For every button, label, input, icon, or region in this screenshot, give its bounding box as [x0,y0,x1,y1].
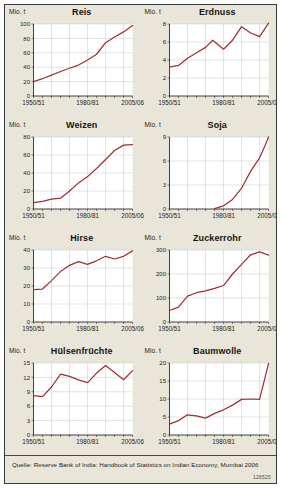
svg-text:1980/81: 1980/81 [212,212,235,219]
svg-text:60: 60 [23,151,30,158]
svg-text:0: 0 [162,318,166,325]
infographic-poster: Mio. t Reis 0204060801001950/511980/8120… [4,4,277,484]
svg-text:2005/06: 2005/06 [257,99,277,106]
svg-text:1980/81: 1980/81 [212,325,235,332]
chart-title-weizen: Weizen [9,120,137,130]
svg-text:2005/06: 2005/06 [257,438,277,445]
svg-text:1980/81: 1980/81 [76,438,99,445]
svg-text:10: 10 [159,395,166,402]
svg-text:1950/51: 1950/51 [158,325,181,332]
plot-area-zuckerrohr: 01002003001950/511980/812005/06 [145,246,273,336]
svg-text:40: 40 [23,63,30,70]
chart-title-soja: Soja [145,120,273,130]
chart-title-hirse: Hirse [9,233,137,243]
svg-text:2: 2 [162,74,166,81]
svg-text:0: 0 [27,318,31,325]
line-chart-zuckerrohr: 01002003001950/511980/812005/06 [145,246,273,336]
source-note: Quelle: Reserve Bank of India: Handbook … [12,461,259,468]
svg-text:1950/51: 1950/51 [22,325,45,332]
svg-text:20: 20 [23,282,30,289]
chart-panel-weizen: Mio. t Weizen 0204060801950/511980/81200… [5,118,141,231]
svg-text:6: 6 [162,157,166,164]
svg-text:300: 300 [155,246,166,253]
chart-panel-erdnuss: Mio. t Erdnuss 024681950/511980/812005/0… [141,5,277,118]
svg-text:100: 100 [155,294,166,301]
svg-text:0: 0 [27,205,31,212]
line-chart-huelsenfruechte: 036912151950/511980/812005/06 [9,359,137,449]
svg-text:4: 4 [162,56,166,63]
svg-text:0: 0 [27,431,31,438]
svg-text:80: 80 [23,133,30,140]
svg-text:15: 15 [159,377,166,384]
svg-text:20: 20 [23,78,30,85]
svg-text:1950/51: 1950/51 [158,99,181,106]
svg-text:12: 12 [23,374,30,381]
svg-text:0: 0 [162,205,166,212]
chart-header-weizen: Mio. t Weizen [9,120,137,133]
svg-text:1980/81: 1980/81 [76,99,99,106]
svg-text:6: 6 [162,38,166,45]
chart-header-huelsenfruechte: Mio. t Hülsenfrüchte [9,346,137,359]
plot-area-hirse: 0102030401950/511980/812005/06 [9,246,137,336]
line-chart-baumwolle: 051015201950/511980/812005/06 [145,359,273,449]
chart-header-soja: Mio. t Soja [145,120,273,133]
svg-text:3: 3 [27,417,31,424]
chart-header-reis: Mio. t Reis [9,7,137,20]
svg-text:80: 80 [23,35,30,42]
chart-panel-huelsenfruechte: Mio. t Hülsenfrüchte 036912151950/511980… [5,344,141,457]
plot-area-soja: 03691950/511980/812005/06 [145,133,273,223]
line-chart-erdnuss: 024681950/511980/812005/06 [145,20,273,110]
svg-text:1950/51: 1950/51 [22,438,45,445]
chart-title-huelsenfruechte: Hülsenfrüchte [9,346,137,356]
plot-area-erdnuss: 024681950/511980/812005/06 [145,20,273,110]
chart-panel-hirse: Mio. t Hirse 0102030401950/511980/812005… [5,231,141,344]
svg-text:15: 15 [23,359,30,366]
svg-text:20: 20 [23,187,30,194]
chart-panel-soja: Mio. t Soja 03691950/511980/812005/06 [141,118,277,231]
svg-text:1980/81: 1980/81 [76,212,99,219]
svg-text:1950/51: 1950/51 [22,212,45,219]
chart-panel-reis: Mio. t Reis 0204060801001950/511980/8120… [5,5,141,118]
svg-text:5: 5 [162,413,166,420]
svg-text:100: 100 [20,20,31,27]
svg-text:1980/81: 1980/81 [212,99,235,106]
svg-text:1980/81: 1980/81 [212,438,235,445]
plot-area-reis: 0204060801001950/511980/812005/06 [9,20,137,110]
svg-text:60: 60 [23,49,30,56]
chart-header-erdnuss: Mio. t Erdnuss [145,7,273,20]
svg-text:40: 40 [23,169,30,176]
chart-grid: Mio. t Reis 0204060801001950/511980/8120… [5,5,276,457]
chart-panel-baumwolle: Mio. t Baumwolle 051015201950/511980/812… [141,344,277,457]
svg-text:200: 200 [155,270,166,277]
plot-area-weizen: 0204060801950/511980/812005/06 [9,133,137,223]
plot-area-huelsenfruechte: 036912151950/511980/812005/06 [9,359,137,449]
svg-text:0: 0 [162,431,166,438]
chart-panel-zuckerrohr: Mio. t Zuckerrohr 01002003001950/511980/… [141,231,277,344]
svg-text:1980/81: 1980/81 [76,325,99,332]
svg-text:0: 0 [27,92,31,99]
line-chart-weizen: 0204060801950/511980/812005/06 [9,133,137,223]
svg-text:0: 0 [162,92,166,99]
svg-text:30: 30 [23,264,30,271]
line-chart-soja: 03691950/511980/812005/06 [145,133,273,223]
plot-area-baumwolle: 051015201950/511980/812005/06 [145,359,273,449]
svg-text:20: 20 [159,359,166,366]
svg-text:8: 8 [162,20,166,27]
svg-text:1950/51: 1950/51 [158,438,181,445]
chart-title-reis: Reis [9,7,137,17]
svg-text:10: 10 [23,300,30,307]
chart-header-zuckerrohr: Mio. t Zuckerrohr [145,233,273,246]
line-chart-reis: 0204060801001950/511980/812005/06 [9,20,137,110]
source-bar: Quelle: Reserve Bank of India: Handbook … [5,455,276,483]
graphic-id: 126525 [253,474,271,480]
chart-title-baumwolle: Baumwolle [145,346,273,356]
svg-text:40: 40 [23,246,30,253]
svg-text:1950/51: 1950/51 [22,99,45,106]
svg-text:9: 9 [27,388,31,395]
svg-text:3: 3 [162,181,166,188]
svg-text:2005/06: 2005/06 [257,325,277,332]
svg-text:6: 6 [27,402,31,409]
line-chart-hirse: 0102030401950/511980/812005/06 [9,246,137,336]
svg-text:9: 9 [162,133,166,140]
chart-header-baumwolle: Mio. t Baumwolle [145,346,273,359]
